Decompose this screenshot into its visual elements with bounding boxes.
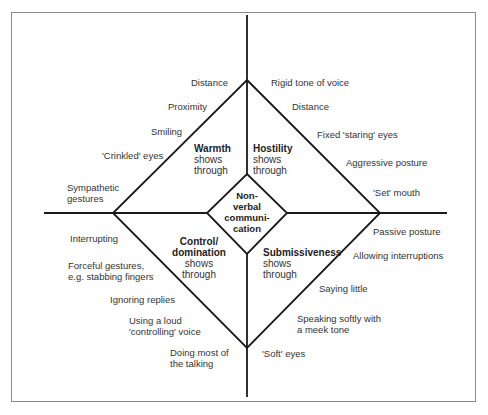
control-cue: 'controlling' voice [129,326,201,337]
submissive-cue: Allowing interruptions [353,250,443,261]
control-cue: Using a loud [129,315,182,326]
control-cue: Ignoring replies [110,294,175,305]
control-cue: Doing most of [170,347,229,358]
control-cue: e.g. stabbing fingers [68,271,154,282]
center-label: Non- verbal communi- cation [217,190,277,234]
hostility-cue: Rigid tone of voice [271,77,349,88]
quadrant-control: Control/ domination shows through [170,236,228,280]
warmth-cue: 'Crinkled' eyes [102,150,163,161]
quadrant-warmth: Warmth shows through [194,143,231,176]
quadrant-submissiveness: Submissiveness shows through [263,247,341,280]
control-cue: Forceful gestures, [68,260,144,271]
submissive-cue: Speaking softly with [297,313,381,324]
submissive-cue: Passive posture [373,226,441,237]
quadrant-hostility: Hostility shows through [253,143,292,176]
submissive-cue: a meek tone [297,324,349,335]
submissive-cue: Saying little [319,283,368,294]
hostility-cue: Distance [292,101,329,112]
warmth-cue: Proximity [168,101,207,112]
control-cue: the talking [170,358,213,369]
submissive-cue: 'Soft' eyes [262,348,305,359]
hostility-cue: 'Set' mouth [373,187,420,198]
hostility-cue: Aggressive posture [346,157,427,168]
warmth-cue: Smiling [151,126,182,137]
warmth-cue: Sympathetic [67,182,119,193]
control-cue: Interrupting [70,233,118,244]
warmth-cue: Distance [191,77,228,88]
hostility-cue: Fixed 'staring' eyes [317,129,398,140]
warmth-cue: gestures [67,193,103,204]
